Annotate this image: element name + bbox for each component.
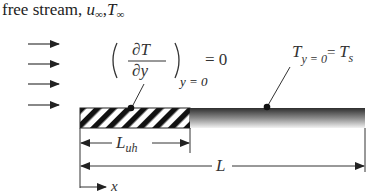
right-condition: Ty = 0= Ts [292,42,353,62]
point-marker-right [264,104,271,111]
close-paren [175,43,179,78]
left-equals-zero: = 0 [205,50,227,70]
left-subscript: y = 0 [180,74,208,90]
heated-section [190,108,365,128]
leader-line-right [267,67,290,107]
unheated-length-label: Luh [116,133,137,153]
diagram-canvas [0,0,385,194]
leader-line-left [132,84,144,107]
open-paren [113,43,117,78]
point-marker-left [128,105,135,112]
total-length-label: L [216,156,225,176]
x-axis-label: x [111,178,118,194]
t-subscript: y = 0 [301,52,326,66]
partial-y-label: ∂y [132,61,148,81]
equals-sign: = [327,44,339,60]
free-stream-arrows [28,44,59,105]
ts-symbol: T [339,42,348,61]
partial-t-label: ∂T [132,40,150,60]
ts-subscript: s [349,51,354,65]
uh-subscript: uh [125,141,137,155]
unheated-section [80,108,190,128]
